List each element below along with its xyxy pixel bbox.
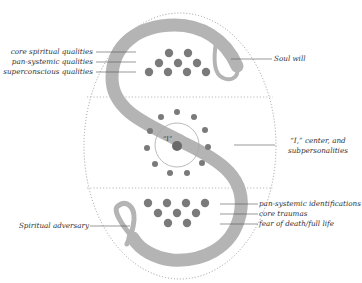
spiritual-adversary-loop <box>116 204 134 244</box>
label-fear-of-death: fear of death/full life <box>259 220 334 227</box>
label-core-traumas: core traumas <box>259 210 307 217</box>
label-i-center-line1: “I,” center, and <box>288 136 348 146</box>
label-i-center: “I” <box>163 135 172 143</box>
label-core-spiritual-qualities: core spiritual qualities <box>11 48 93 55</box>
label-i-center-line2: subpersonalities <box>288 146 348 156</box>
i-center-dot <box>172 141 182 151</box>
label-pan-systemic-qualities: pan-systemic qualities <box>12 58 93 65</box>
upper-dot-group <box>145 49 210 76</box>
label-pan-systemic-identifications: pan-systemic identifications <box>259 200 361 207</box>
label-soul-will: Soul will <box>274 55 306 62</box>
lower-dot-group <box>144 199 209 227</box>
label-i-center-subpersonalities: “I,” center, and subpersonalities <box>288 136 348 155</box>
label-superconscious-qualities: superconscious qualities <box>3 68 93 75</box>
psychosynthesis-egg-diagram: core spiritual qualities pan-systemic qu… <box>0 0 362 283</box>
label-spiritual-adversary: Spiritual adversary <box>19 222 89 229</box>
